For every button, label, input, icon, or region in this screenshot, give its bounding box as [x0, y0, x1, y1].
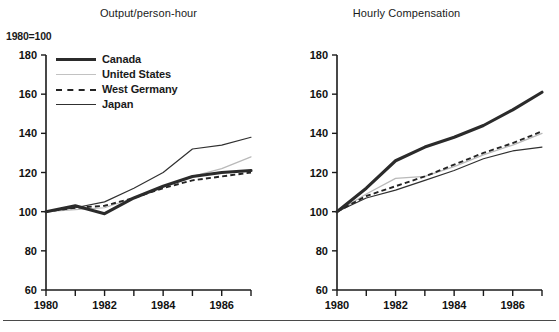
y-tick-label: 160: [310, 88, 328, 100]
legend-item-japan: Japan: [56, 97, 178, 112]
x-tick-label: 1980: [34, 299, 58, 311]
y-tick-label: 120: [310, 167, 328, 179]
x-tick-label: 1984: [442, 299, 467, 311]
y-tick-label: 80: [25, 245, 37, 257]
legend-label-united-states: United States: [102, 69, 171, 80]
series-line-united-states: [337, 133, 542, 211]
chart-panel-hourly-compensation: Hourly Compensation 60801001201401601801…: [280, 0, 559, 312]
y-tick-label: 140: [19, 127, 37, 139]
plot-area-right: 60801001201401601801980198219841986: [280, 0, 559, 312]
y-tick-label: 120: [19, 167, 37, 179]
plot-area-left: 60801001201401601801980198219841986: [0, 0, 279, 312]
y-tick-label: 80: [316, 245, 328, 257]
legend-item-west-germany: West Germany: [56, 82, 178, 97]
x-tick-label: 1986: [500, 299, 524, 311]
y-tick-label: 140: [310, 127, 328, 139]
legend-swatch-west-germany: [56, 84, 96, 96]
legend-label-canada: Canada: [102, 54, 141, 65]
x-tick-label: 1984: [151, 299, 176, 311]
y-tick-label: 100: [19, 206, 37, 218]
legend: Canada United States West Germany Japan: [56, 52, 178, 112]
y-tick-label: 60: [316, 284, 328, 296]
legend-swatch-japan: [56, 99, 96, 111]
y-tick-label: 160: [19, 88, 37, 100]
chart-panel-output-per-person-hour: Output/person-hour 1980=100 608010012014…: [0, 0, 279, 312]
x-tick-label: 1986: [209, 299, 233, 311]
series-line-japan: [337, 147, 542, 212]
y-tick-label: 60: [25, 284, 37, 296]
y-tick-label: 100: [310, 206, 328, 218]
legend-swatch-canada: [56, 54, 96, 66]
legend-item-united-states: United States: [56, 67, 178, 82]
x-tick-label: 1980: [325, 299, 349, 311]
bottom-rule: [3, 320, 556, 321]
x-tick-label: 1982: [92, 299, 116, 311]
legend-swatch-united-states: [56, 69, 96, 81]
series-line-canada: [46, 171, 251, 214]
y-tick-label: 180: [310, 49, 328, 61]
series-line-japan: [46, 137, 251, 211]
y-tick-label: 180: [19, 49, 37, 61]
legend-item-canada: Canada: [56, 52, 178, 67]
legend-label-japan: Japan: [102, 99, 133, 110]
legend-label-west-germany: West Germany: [102, 84, 178, 95]
x-tick-label: 1982: [383, 299, 407, 311]
series-line-united-states: [46, 157, 251, 212]
figure: Output/person-hour 1980=100 608010012014…: [0, 0, 559, 332]
